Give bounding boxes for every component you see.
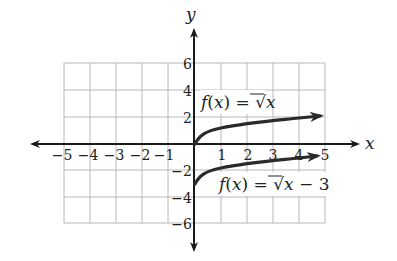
x-tick: −2 [130,147,151,163]
x-tick: −3 [104,147,125,163]
x-tick: 4 [295,147,304,163]
x-tick: −4 [78,147,99,163]
x-tick: −5 [52,147,73,163]
x-axis-label: x [365,133,375,153]
y-tick: 2 [183,110,192,126]
x-tick: 1 [218,147,227,163]
y-axis-label: y [185,4,196,24]
x-tick: 5 [321,147,330,163]
x-tick: −1 [154,147,175,163]
curve-sqrt-x [195,116,320,144]
y-tick: 6 [183,56,192,72]
y-tick: −6 [171,216,192,232]
svg-text:f(x) = √x: f(x) = √x [199,92,276,112]
y-tick: −4 [171,190,192,206]
y-tick: 4 [183,83,192,99]
y-tick: −2 [171,163,192,179]
label-sqrt-x-minus-3: f(x) = √x − 3 [217,172,346,196]
label-sqrt-x: f(x) = √x [199,90,276,114]
x-tick: 2 [244,147,253,163]
coordinate-plane: x y −5 −4 −3 −2 −1 1 2 3 4 5 6 4 2 −2 −4… [0,0,397,261]
svg-text:f(x) = √x − 3: f(x) = √x − 3 [217,174,330,194]
